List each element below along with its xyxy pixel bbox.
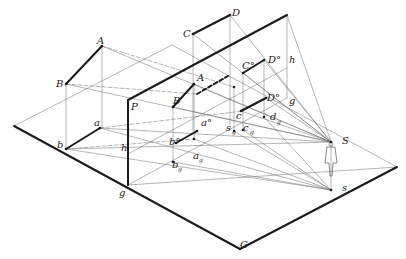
point-marker [233, 86, 236, 89]
point-label: P [130, 101, 138, 112]
point-label: s [226, 122, 231, 133]
point-marker [242, 72, 245, 75]
subscript-label: g [199, 156, 203, 164]
point-label: b [57, 139, 63, 150]
subscript-label: g [250, 128, 254, 136]
construction-line [234, 131, 331, 190]
point-label: G [240, 239, 248, 250]
subscript-label: g [232, 128, 236, 136]
point-marker [192, 33, 195, 36]
object-edge [240, 167, 397, 249]
object-edge [66, 128, 100, 149]
point-marker [193, 83, 196, 86]
point-marker [229, 14, 232, 17]
point-label: g [289, 95, 295, 106]
construction-line [194, 84, 331, 142]
point-label: C [183, 28, 191, 39]
point-label: C° [242, 60, 255, 71]
point-label: D° [267, 54, 281, 65]
point-label: c [236, 110, 242, 121]
point-label: B [55, 78, 63, 89]
point-label: A [196, 72, 204, 83]
point-marker [65, 83, 68, 86]
construction-line [172, 45, 397, 167]
object-edge [193, 15, 230, 34]
construction-line [194, 139, 331, 190]
construction-line [287, 15, 331, 142]
subscript-label: g [178, 165, 182, 173]
subscript-label: g [277, 118, 281, 126]
point-label: D° [266, 92, 280, 103]
point-label: b° [169, 136, 180, 147]
point-label: g [119, 187, 125, 198]
hidden-construction-line [102, 46, 234, 87]
construction-line [66, 142, 331, 149]
point-marker [330, 141, 333, 144]
point-label: a [94, 117, 100, 128]
point-marker [196, 130, 199, 133]
point-label: s [342, 182, 347, 193]
construction-line [173, 162, 331, 190]
point-label: B [172, 95, 180, 106]
point-marker [172, 106, 175, 109]
construction-line [14, 45, 172, 126]
point-label: h [121, 142, 127, 153]
point-marker [65, 148, 68, 151]
object-edge [66, 46, 102, 84]
object-edges [14, 15, 397, 249]
point-marker [263, 59, 266, 62]
point-label: a° [201, 117, 212, 128]
construction-lines [14, 15, 397, 190]
hidden-construction-line [100, 111, 243, 128]
point-label: A [96, 35, 104, 46]
diagram-svg: ABabPhgCDABa°b°C°D°hD°gcdscabSsGggggg [0, 0, 406, 259]
point-label: D [231, 7, 240, 18]
point-marker [263, 116, 266, 119]
point-marker [193, 138, 196, 141]
point-label: h [289, 54, 295, 65]
perspective-diagram: ABabPhgCDABa°b°C°D°hD°gcdscabSsGggggg [0, 0, 406, 259]
point-label: d [270, 111, 276, 122]
construction-line [128, 167, 397, 185]
point-label: c [243, 122, 249, 133]
point-marker [330, 189, 333, 192]
point-label: S [342, 135, 349, 146]
